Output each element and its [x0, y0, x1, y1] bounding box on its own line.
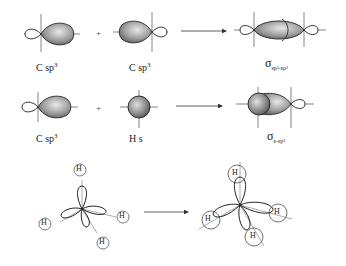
h-atom-label: H: [76, 164, 82, 173]
c-sp3-orbital-right-row1: [113, 12, 168, 52]
label-c-sp3-row1-right: C sp3: [129, 62, 151, 73]
hydrogen-atoms-separate: [39, 164, 129, 249]
c-sp3-orbital-row2: [22, 92, 78, 122]
label-c-sp3-row1-left: C sp3: [36, 62, 58, 73]
h-atom-label: H: [99, 237, 105, 246]
c-sp3-orbital-left-row1: [24, 14, 80, 52]
label-sigma-sp3-sp3: σsp³-sp³: [265, 56, 288, 71]
h-atom-label: H: [250, 231, 256, 240]
sigma-sp3-sp3-bond: [234, 12, 326, 47]
label-c-sp3-row2: C sp3: [36, 133, 58, 144]
label-h-s: H s: [129, 133, 143, 144]
h-atom-label: H: [119, 211, 125, 220]
h-s-orbital: [120, 90, 158, 128]
h-atom-label: H: [274, 207, 280, 216]
plus-operator-row2: +: [96, 103, 101, 113]
label-sigma-s-sp3: σs-sp³: [267, 129, 285, 144]
h-atom-label: H: [41, 218, 47, 227]
sp3-tetrahedral-orbitals: [60, 180, 116, 233]
sigma-s-sp3-bond: [236, 87, 314, 128]
h-atom-label: H: [232, 168, 238, 177]
plus-operator-row1: +: [96, 28, 101, 38]
methane-bonding-orbitals: [199, 162, 292, 246]
h-atom-label: H: [205, 214, 211, 223]
